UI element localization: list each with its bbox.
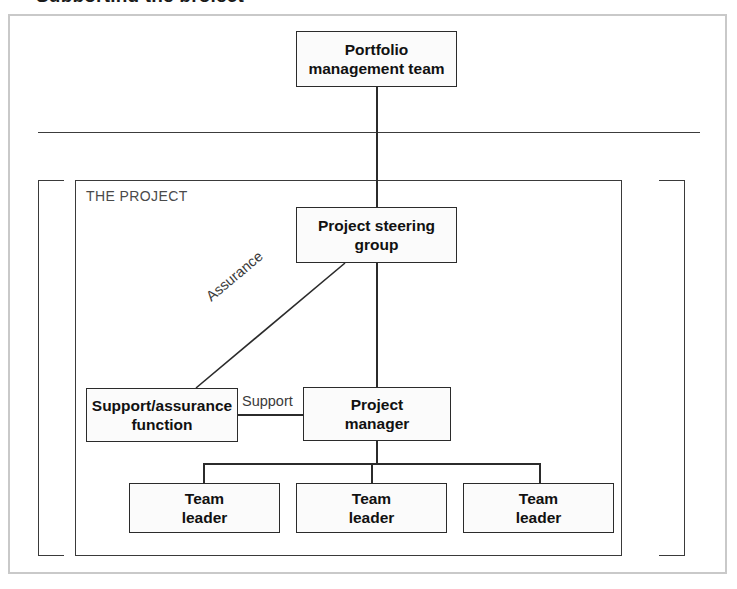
portfolio-boundary-divider — [38, 132, 700, 133]
project-boundary-label: THE PROJECT — [86, 188, 188, 204]
node-portfolio-line2: management team — [308, 59, 444, 78]
page-title-fragment: Supporting the project — [36, 0, 436, 2]
right-bracket — [659, 180, 685, 556]
node-project-steering-group[interactable]: Project steering group — [296, 207, 457, 263]
connector-drop-team-leader-2 — [371, 463, 373, 483]
diagram-canvas: Supporting the project THE PROJECT Assur… — [0, 0, 737, 589]
node-project-manager[interactable]: Project manager — [303, 387, 451, 441]
node-pm-line2: manager — [345, 414, 410, 433]
node-portfolio-line1: Portfolio — [308, 40, 444, 59]
node-steering-line1: Project steering — [318, 216, 435, 235]
node-support-line2: function — [92, 415, 232, 434]
connector-drop-team-leader-1 — [203, 463, 205, 483]
node-portfolio-management-team[interactable]: Portfolio management team — [296, 31, 457, 87]
node-support-assurance-function[interactable]: Support/assurance function — [86, 388, 238, 442]
node-team-leader-line1: Team — [349, 489, 395, 508]
connector-support-to-project-manager — [238, 414, 303, 416]
node-team-leader-line1: Team — [516, 489, 562, 508]
connector-portfolio-to-steering — [376, 87, 378, 207]
connector-drop-team-leader-3 — [539, 463, 541, 483]
node-steering-line2: group — [318, 235, 435, 254]
node-support-line1: Support/assurance — [92, 396, 232, 415]
left-bracket — [38, 180, 64, 556]
connector-steering-to-project-manager — [376, 263, 378, 387]
node-team-leader-line1: Team — [182, 489, 228, 508]
node-pm-line1: Project — [345, 395, 410, 414]
connector-project-manager-to-bus — [376, 441, 378, 464]
edge-label-support: Support — [241, 393, 294, 409]
node-team-leader[interactable]: Team leader — [129, 483, 280, 533]
node-team-leader-line2: leader — [182, 508, 228, 527]
node-team-leader[interactable]: Team leader — [463, 483, 614, 533]
node-team-leader-line2: leader — [516, 508, 562, 527]
node-team-leader-line2: leader — [349, 508, 395, 527]
node-team-leader[interactable]: Team leader — [296, 483, 447, 533]
